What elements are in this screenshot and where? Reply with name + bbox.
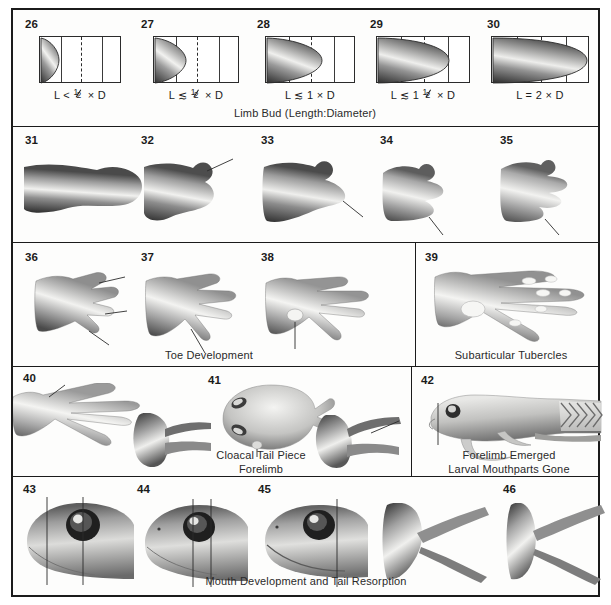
row-forelimb: 40 41 42 bbox=[13, 367, 598, 477]
stage-number-43: 43 bbox=[23, 484, 36, 496]
stage-number-35: 35 bbox=[500, 135, 513, 147]
stage-number-33: 33 bbox=[261, 135, 274, 147]
stage-number-31: 31 bbox=[25, 135, 38, 147]
stage-number-32: 32 bbox=[141, 135, 154, 147]
limb-bud-shape-30 bbox=[492, 37, 590, 84]
stage-number-42: 42 bbox=[421, 375, 434, 387]
foot-art-36 bbox=[33, 271, 143, 357]
stage-number-44: 44 bbox=[137, 484, 150, 496]
caption-mouth-tail: Mouth Development and Tail Resorption bbox=[205, 575, 406, 589]
staging-figure: 26 27 28 29 30 bbox=[0, 0, 611, 605]
limb-paddle-art-33 bbox=[261, 155, 371, 235]
stage-number-34: 34 bbox=[380, 135, 393, 147]
caption-larval-mouthparts-gone: Larval Mouthparts Gone bbox=[448, 463, 569, 477]
limb-bud-box-26 bbox=[39, 36, 121, 83]
limb-bud-box-29 bbox=[376, 36, 470, 83]
limb-bud-shape-29 bbox=[377, 37, 471, 84]
row-toe-development: 36 37 38 39 bbox=[13, 243, 598, 367]
head-art-43 bbox=[21, 495, 136, 587]
ratio-label-26: L < 12 × D bbox=[54, 89, 106, 101]
fraction-one-half-27: 12 bbox=[191, 90, 202, 101]
ratio-label-29: L ≲ 1 12 × D bbox=[391, 89, 456, 102]
stage-number-46: 46 bbox=[503, 484, 516, 496]
ratio-label-30: L = 2 × D bbox=[516, 89, 564, 101]
caption-limb-bud: Limb Bud (Length:Diameter) bbox=[234, 107, 376, 121]
foot-art-38 bbox=[263, 275, 388, 367]
stage-number-29: 29 bbox=[370, 19, 383, 31]
foot-art-39 bbox=[433, 269, 608, 351]
limb-paddle-art-35 bbox=[497, 157, 607, 237]
ratio-label-28: L ≲ 1 × D bbox=[285, 89, 335, 102]
stage-number-28: 28 bbox=[257, 19, 270, 31]
limb-bud-shape-28 bbox=[266, 37, 356, 84]
forelimb-tail-piece-art-41 bbox=[313, 415, 405, 477]
cloacal-tail-piece-art-40 bbox=[131, 413, 213, 475]
row-mouth-tail: 43 44 45 46 bbox=[13, 477, 598, 595]
stage-number-37: 37 bbox=[141, 252, 154, 264]
ratio-label-27: L ≲ 12 × D bbox=[169, 89, 224, 102]
limb-paddle-art-32 bbox=[141, 155, 246, 233]
limb-paddle-art-34 bbox=[379, 159, 484, 239]
limb-bud-shape-26 bbox=[40, 37, 122, 84]
row-foot-paddle: 31 32 33 34 35 bbox=[13, 127, 598, 243]
caption-forelimb: Forelimb bbox=[239, 463, 283, 477]
stage-number-30: 30 bbox=[487, 19, 500, 31]
stage-number-36: 36 bbox=[25, 252, 38, 264]
stage-number-27: 27 bbox=[141, 19, 154, 31]
stage-number-39: 39 bbox=[425, 252, 438, 264]
fraction-one-half-26: 12 bbox=[73, 90, 84, 101]
row-limb-bud: 26 27 28 29 30 bbox=[13, 10, 598, 127]
caption-subarticular-tubercles: Subarticular Tubercles bbox=[455, 349, 568, 363]
panel-divider-39 bbox=[415, 243, 416, 367]
tail-art-46 bbox=[505, 503, 609, 587]
caption-cloacal-tail-piece: Cloacal Tail Piece bbox=[216, 449, 305, 463]
stage-number-26: 26 bbox=[25, 19, 38, 31]
limb-paddle-art-31 bbox=[22, 153, 147, 231]
limb-bud-box-28 bbox=[265, 36, 355, 83]
stage-number-45: 45 bbox=[258, 484, 271, 496]
fraction-one-half-29: 12 bbox=[423, 90, 434, 101]
limb-bud-box-27 bbox=[153, 36, 239, 83]
figure-outer-frame: 26 27 28 29 30 bbox=[11, 8, 600, 597]
panel-divider-42 bbox=[411, 367, 412, 477]
caption-forelimb-emerged: Forelimb Emerged bbox=[463, 449, 556, 463]
limb-bud-shape-27 bbox=[154, 37, 240, 84]
caption-toe-development: Toe Development bbox=[165, 349, 253, 363]
limb-bud-box-30 bbox=[491, 36, 589, 83]
stage-number-38: 38 bbox=[261, 252, 274, 264]
